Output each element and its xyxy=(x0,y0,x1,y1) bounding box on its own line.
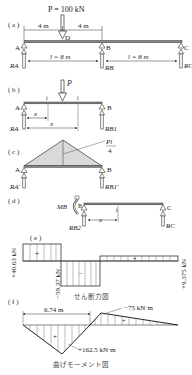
beam-ab xyxy=(24,102,102,104)
sign-pos-2: + xyxy=(122,318,126,324)
continuous-beam-diagram: ( a ) P = 100 kN 4 m 4 m D A B C xyxy=(0,0,192,375)
section-mark: i xyxy=(116,207,118,213)
reaction-c-label: RC xyxy=(183,62,192,70)
reaction-b-label: RB xyxy=(104,64,114,72)
sign-pos: + xyxy=(53,333,57,341)
panel-a: ( a ) P = 100 kN 4 m 4 m D A B C xyxy=(8,5,192,72)
support-a-icon xyxy=(21,43,27,48)
sign-neg: − xyxy=(79,270,83,278)
panel-e-shear-diagram: ( e ) + − + +40.63 kN −59.37 kN +9 xyxy=(10,234,188,301)
reaction-b1-label: RB1 xyxy=(104,125,117,133)
panel-c-tag: ( c ) xyxy=(8,148,20,156)
moment-value-pos: +162.5 kN·m xyxy=(78,346,116,354)
dim-right: 4 m xyxy=(78,22,89,30)
support-a-label: A xyxy=(15,166,20,174)
support-b-icon xyxy=(99,104,105,109)
reaction-b1-prime-label: RB1' xyxy=(104,183,119,191)
span-bc-label: l = 8 m xyxy=(128,53,148,61)
reaction-a-prime-label: RA' xyxy=(9,183,21,191)
reaction-a-arrow-icon xyxy=(22,173,27,188)
support-a-label: A xyxy=(15,44,20,52)
moment-dim: 6.74 m xyxy=(44,306,64,314)
dim-x2: x xyxy=(49,120,54,128)
beam-bc xyxy=(84,203,163,205)
panel-c: ( c ) Pl 4 A B RA' RB1' xyxy=(8,138,119,191)
section-mark-1: i xyxy=(46,95,48,101)
sign-pos: + xyxy=(35,250,39,258)
moment-value-neg: −75 kN·m xyxy=(124,304,154,312)
shear-caption: せん断力図 xyxy=(74,292,109,301)
reaction-c-arrow-icon xyxy=(179,49,184,68)
reaction-b-arrow-icon xyxy=(100,173,105,188)
reaction-a-label: RA xyxy=(9,125,19,133)
reaction-a-arrow-icon xyxy=(22,110,27,129)
support-a-icon xyxy=(21,104,27,109)
support-a-label: A xyxy=(15,104,20,112)
reaction-a-label: RA xyxy=(9,62,19,70)
peak-label-den: 4 xyxy=(108,147,112,155)
support-c-label: C xyxy=(184,44,189,52)
support-c-label: C xyxy=(167,204,172,212)
panel-a-tag: ( a ) xyxy=(8,21,20,29)
support-b-icon xyxy=(99,168,105,173)
panel-f-moment-diagram: ( f ) 6.74 m + + −75 kN·m +1 xyxy=(8,298,178,369)
reaction-b2-label: RB2 xyxy=(68,224,82,232)
panel-e-tag: ( e ) xyxy=(30,234,42,242)
load-label: P = 100 kN xyxy=(48,5,85,14)
section-mark-2: i xyxy=(77,95,79,101)
span-ab-label: l = 8 m xyxy=(50,53,70,61)
moment-mb-label: MB xyxy=(56,203,68,211)
support-b-icon xyxy=(99,43,105,48)
support-b-label: B xyxy=(107,104,112,112)
panel-b: ( b ) P i i A B x x RA RB1 xyxy=(8,79,117,133)
reaction-c-label: RC xyxy=(165,222,175,230)
support-b-label: B xyxy=(106,44,111,52)
beam-abc xyxy=(24,41,182,43)
panel-d-tag: ( d ) xyxy=(8,197,20,205)
moment-caption: 曲げモーメント図 xyxy=(53,360,109,369)
panel-b-tag: ( b ) xyxy=(8,86,20,94)
peak-label-num: Pl xyxy=(105,138,112,146)
load-p-label: P xyxy=(66,79,72,88)
reaction-b-arrow-icon xyxy=(100,49,105,68)
dim-x1: x xyxy=(33,110,38,118)
reaction-b2-arrow-icon xyxy=(82,211,87,226)
shear-value-right: +9.375 kN xyxy=(180,259,188,289)
reaction-c-arrow-icon xyxy=(161,211,166,226)
load-arrow-icon xyxy=(59,80,67,101)
beam-ab xyxy=(24,166,102,168)
reaction-a-arrow-icon xyxy=(22,49,27,68)
shear-value-mid: −59.37 kN xyxy=(54,269,62,299)
support-a-icon xyxy=(21,168,27,173)
shear-value-left: +40.63 kN xyxy=(10,248,18,278)
panel-d: ( d ) MB B C i x RB2 RC xyxy=(8,196,175,232)
support-b-label: B xyxy=(107,166,112,174)
support-b-label: B xyxy=(78,203,82,209)
support-c-icon xyxy=(160,205,166,210)
panel-f-tag: ( f ) xyxy=(8,298,19,306)
dim-left: 4 m xyxy=(38,22,49,30)
reaction-b-arrow-icon xyxy=(100,110,105,129)
